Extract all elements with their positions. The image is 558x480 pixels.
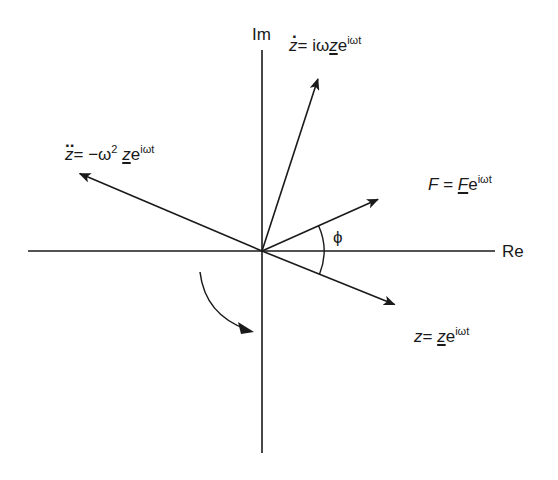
force-vector <box>262 199 378 251</box>
acceleration-power: 2 <box>111 143 117 155</box>
acceleration-vector <box>80 174 262 251</box>
displacement-amplitude: z <box>437 327 446 346</box>
velocity-exp-base: e <box>338 36 347 55</box>
diagram-canvas <box>0 0 558 480</box>
real-axis-label: Re <box>502 243 524 260</box>
displacement-exp-base: e <box>446 327 455 346</box>
imaginary-axis-label: Im <box>252 26 271 43</box>
acceleration-lhs: z <box>65 146 74 163</box>
velocity-label: z= iωzeiωt <box>289 37 361 54</box>
force-exp-base: e <box>468 175 477 194</box>
rotation-arrow <box>200 272 248 330</box>
displacement-vector <box>262 251 395 305</box>
rotation-arrow-head <box>238 322 254 334</box>
phase-angle-arc <box>319 226 324 274</box>
displacement-rhs-prefix: = <box>423 327 433 346</box>
force-amplitude: F <box>458 175 468 194</box>
force-label: F = Feiωt <box>428 176 492 193</box>
velocity-lhs: z <box>289 37 298 54</box>
velocity-exponent: iωt <box>347 34 361 46</box>
velocity-rhs-prefix: = iω <box>298 36 330 55</box>
acceleration-exp-base: e <box>131 145 140 164</box>
velocity-amplitude: z <box>329 36 338 55</box>
acceleration-amplitude: z <box>122 145 131 164</box>
acceleration-exponent: iωt <box>140 143 154 155</box>
phasor-diagram: Im Re ϕ z= iωzeiωt z= −ω2 zeiωt F = Feiω… <box>0 0 558 480</box>
displacement-lhs: z <box>414 327 423 346</box>
force-lhs: F <box>428 175 438 194</box>
displacement-exponent: iωt <box>455 325 469 337</box>
phase-angle-label: ϕ <box>333 229 343 246</box>
acceleration-label: z= −ω2 zeiωt <box>65 146 154 163</box>
force-exponent: iωt <box>478 173 492 185</box>
velocity-vector <box>262 79 318 251</box>
acceleration-rhs-prefix: = −ω <box>74 145 112 164</box>
displacement-label: z= zeiωt <box>414 328 469 345</box>
force-rhs-prefix: = <box>443 175 453 194</box>
